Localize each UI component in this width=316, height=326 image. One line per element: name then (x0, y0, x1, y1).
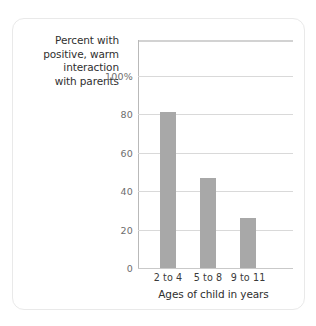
ytick-label-20: 20 (121, 224, 134, 235)
xtick-label-2: 9 to 11 (231, 272, 266, 283)
y-axis-title-line-4: with parents (14, 75, 119, 89)
bar-5-to-8 (200, 178, 216, 268)
ytick-label-80: 80 (121, 109, 134, 120)
ytick-label-0: 0 (127, 263, 133, 274)
bar-9-to-11 (240, 218, 256, 268)
figure-page: Percent with positive, warm interaction … (0, 0, 316, 326)
x-axis-line (138, 268, 293, 269)
y-axis-title-line-2: positive, warm (14, 48, 119, 62)
y-axis-title: Percent with positive, warm interaction … (14, 34, 119, 88)
plot-top-border (138, 40, 293, 42)
ytick-label-60: 60 (121, 147, 134, 158)
bar-2-to-4 (160, 112, 176, 268)
x-axis-title: Ages of child in years (126, 288, 301, 300)
gridline-100 (138, 76, 293, 77)
y-axis-line (138, 40, 139, 268)
plot-area: 100% 80 60 40 20 0 2 to 4 5 to 8 9 to 11 (126, 32, 293, 277)
xtick-label-0: 2 to 4 (154, 272, 183, 283)
xtick-label-1: 5 to 8 (194, 272, 223, 283)
ytick-label-40: 40 (121, 186, 134, 197)
y-axis-title-line-1: Percent with (14, 34, 119, 48)
y-axis-title-line-3: interaction (14, 61, 119, 75)
ytick-label-100: 100% (105, 71, 133, 82)
